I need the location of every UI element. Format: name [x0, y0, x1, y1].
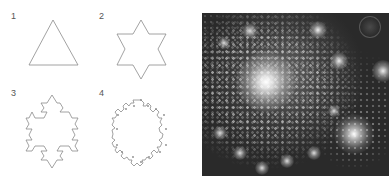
- koch-iteration-4: [112, 100, 163, 166]
- fractal-glow-spot: [372, 60, 389, 82]
- fractal-glow-spot: [242, 23, 258, 39]
- fractal-image: [202, 13, 389, 176]
- fractal-secondary-center: [334, 114, 374, 154]
- koch-curves: [0, 0, 200, 191]
- fractal-glow-spot: [255, 161, 269, 175]
- fractal-glow-spot: [213, 126, 227, 140]
- fractal-glow-spot: [307, 146, 321, 160]
- fractal-glow-spot: [280, 154, 294, 168]
- koch-iteration-2: [117, 20, 166, 79]
- fractal-glow-spot: [218, 37, 230, 49]
- fractal-glow-spot: [328, 105, 340, 117]
- koch-iteration-3: [26, 95, 78, 168]
- fractal-glow-spot: [233, 146, 247, 160]
- fractal-main-center: [236, 52, 296, 112]
- koch-iteration-1: [29, 20, 78, 65]
- fractal-glow-spot: [330, 52, 348, 70]
- fractal-glow-spot: [309, 21, 327, 39]
- fractal-small-spiral: [359, 16, 381, 38]
